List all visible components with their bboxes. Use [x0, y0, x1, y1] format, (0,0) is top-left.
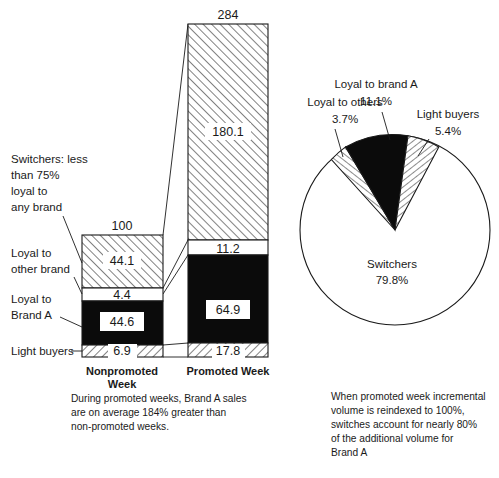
- pie-label-light-buyers-text: Light buyers: [417, 108, 480, 120]
- pie-caption-line5: Brand A: [331, 447, 367, 458]
- callout-loyal-other-brand: Loyal to other brand: [11, 247, 82, 294]
- pie-label-loyal-to-brand-a: Loyal to brand A 11.1%: [334, 78, 417, 140]
- callout-switchers-line1: Switchers: less: [11, 153, 88, 165]
- pie-label-switchers-text: Switchers: [367, 258, 417, 270]
- callout-loyal-brand-a: Loyal to Brand A: [11, 293, 82, 327]
- bar-connector-lines: [163, 24, 188, 357]
- axis-label-nonpromoted-line2: Week: [108, 378, 137, 390]
- callout-light-buyers: Light buyers: [11, 345, 82, 357]
- pie-chart: Loyal to brand A 11.1% Loyal to others 3…: [300, 78, 490, 458]
- callout-switchers-line3: loyal to: [11, 185, 47, 197]
- leader-line-switchers: [63, 216, 82, 263]
- callout-loyal-a-line1: Loyal to: [11, 293, 51, 305]
- pie-label-switchers-value: 79.8%: [376, 274, 409, 286]
- callout-loyal-a-line2: Brand A: [11, 309, 52, 321]
- axis-label-nonpromoted-line1: Nonpromoted: [86, 365, 158, 377]
- bar-caption-line3: non-promoted weeks.: [71, 421, 169, 432]
- pie-caption-line1: When promoted week incremental: [331, 391, 486, 402]
- combined-figure: 100 284 44.1 4.4 44.6 6.9 180.1 11.2 64.…: [0, 0, 499, 478]
- bar-caption-line1: During promoted weeks, Brand A sales: [71, 393, 247, 404]
- figure-root: 100 284 44.1 4.4 44.6 6.9 180.1 11.2 64.…: [0, 0, 499, 478]
- pie-label-loyal-others-text: Loyal to others: [307, 96, 383, 108]
- pie-caption-line2: volume is reindexed to 100%,: [331, 405, 465, 416]
- callout-switchers-line4: any brand: [11, 201, 62, 213]
- leader-line-loyal-a: [60, 317, 82, 327]
- pie-caption-line3: switches account for nearly 80%: [331, 419, 477, 430]
- value-light-buyers-right: 17.8: [216, 344, 240, 358]
- callout-light-buyers: Light buyers: [11, 345, 74, 357]
- pie-label-light-buyers-value: 5.4%: [435, 125, 461, 137]
- callout-loyal-other-line1: Loyal to: [11, 247, 51, 259]
- bar-total-label-left: 100: [112, 219, 133, 233]
- bar-caption-line2: are on average 184% greater than: [71, 407, 226, 418]
- connector-switchers-base: [163, 240, 188, 288]
- callout-switchers-line2: than 75%: [11, 169, 60, 181]
- connector-top: [163, 24, 188, 235]
- pie-label-loyal-others-value: 3.7%: [332, 113, 358, 125]
- axis-label-promoted: Promoted Week: [187, 365, 271, 377]
- bar-total-label-right: 284: [218, 8, 239, 22]
- value-loyal-other-left: 4.4: [113, 288, 130, 302]
- value-light-buyers-left: 6.9: [113, 344, 130, 358]
- value-loyal-brand-a-left: 44.6: [110, 315, 134, 329]
- value-loyal-other-right: 11.2: [216, 242, 239, 256]
- pie-caption-line4: of the additional volume for: [331, 433, 454, 444]
- segment-loyal-brand-a-right[interactable]: [188, 255, 268, 343]
- value-switchers-right: 180.1: [212, 125, 243, 139]
- leader-line-loyal-other: [74, 277, 82, 294]
- bar-chart: 100 284 44.1 4.4 44.6 6.9 180.1 11.2 64.…: [11, 8, 270, 432]
- connector-loyal-other-base: [163, 255, 188, 294]
- pie-label-loyal-a-text: Loyal to brand A: [334, 78, 417, 90]
- callout-loyal-other-line2: other brand: [11, 263, 70, 275]
- value-loyal-brand-a-right: 64.9: [216, 303, 240, 317]
- value-switchers-left: 44.1: [110, 254, 134, 268]
- connector-loyal-a-base: [163, 343, 188, 345]
